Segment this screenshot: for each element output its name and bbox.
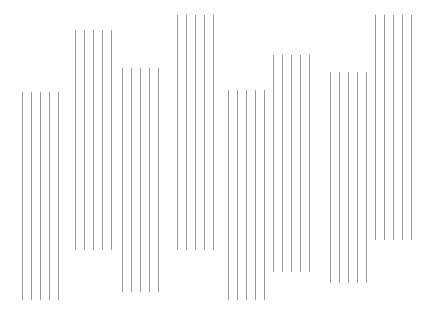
vertical-line xyxy=(255,90,256,300)
vertical-line xyxy=(22,92,23,300)
vertical-line xyxy=(186,15,187,250)
vertical-line xyxy=(282,55,283,272)
vertical-line xyxy=(375,15,376,240)
vertical-line xyxy=(213,15,214,250)
vertical-line xyxy=(140,68,141,292)
vertical-line xyxy=(93,30,94,250)
vertical-line xyxy=(291,55,292,272)
vertical-line xyxy=(149,68,150,292)
vertical-line xyxy=(384,15,385,240)
vertical-line xyxy=(357,72,358,283)
vertical-line xyxy=(330,72,331,283)
vertical-line xyxy=(264,90,265,300)
vertical-line xyxy=(228,90,229,300)
vertical-line xyxy=(366,72,367,283)
vertical-line xyxy=(204,15,205,250)
vertical-line xyxy=(339,72,340,283)
vertical-line xyxy=(122,68,123,292)
vertical-line xyxy=(309,55,310,272)
vertical-lines-layer xyxy=(0,0,439,317)
vertical-line xyxy=(158,68,159,292)
vertical-line xyxy=(273,55,274,272)
vertical-line xyxy=(177,15,178,250)
vertical-line xyxy=(402,15,403,240)
vertical-line xyxy=(102,30,103,250)
vertical-line xyxy=(300,55,301,272)
vertical-line xyxy=(237,90,238,300)
vertical-line xyxy=(348,72,349,283)
vertical-line xyxy=(75,30,76,250)
vertical-line xyxy=(111,30,112,250)
vertical-line xyxy=(131,68,132,292)
vertical-line xyxy=(246,90,247,300)
vertical-line xyxy=(84,30,85,250)
vertical-line xyxy=(393,15,394,240)
vertical-line xyxy=(195,15,196,250)
vertical-line xyxy=(58,92,59,300)
vertical-line xyxy=(411,15,412,240)
vertical-line xyxy=(49,92,50,300)
vertical-line xyxy=(31,92,32,300)
vertical-line xyxy=(40,92,41,300)
figure-canvas xyxy=(0,0,439,317)
